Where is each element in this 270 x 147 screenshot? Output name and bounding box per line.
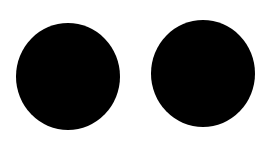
canvas — [0, 0, 270, 147]
right-black-circle — [151, 20, 255, 127]
left-black-circle — [16, 23, 120, 130]
